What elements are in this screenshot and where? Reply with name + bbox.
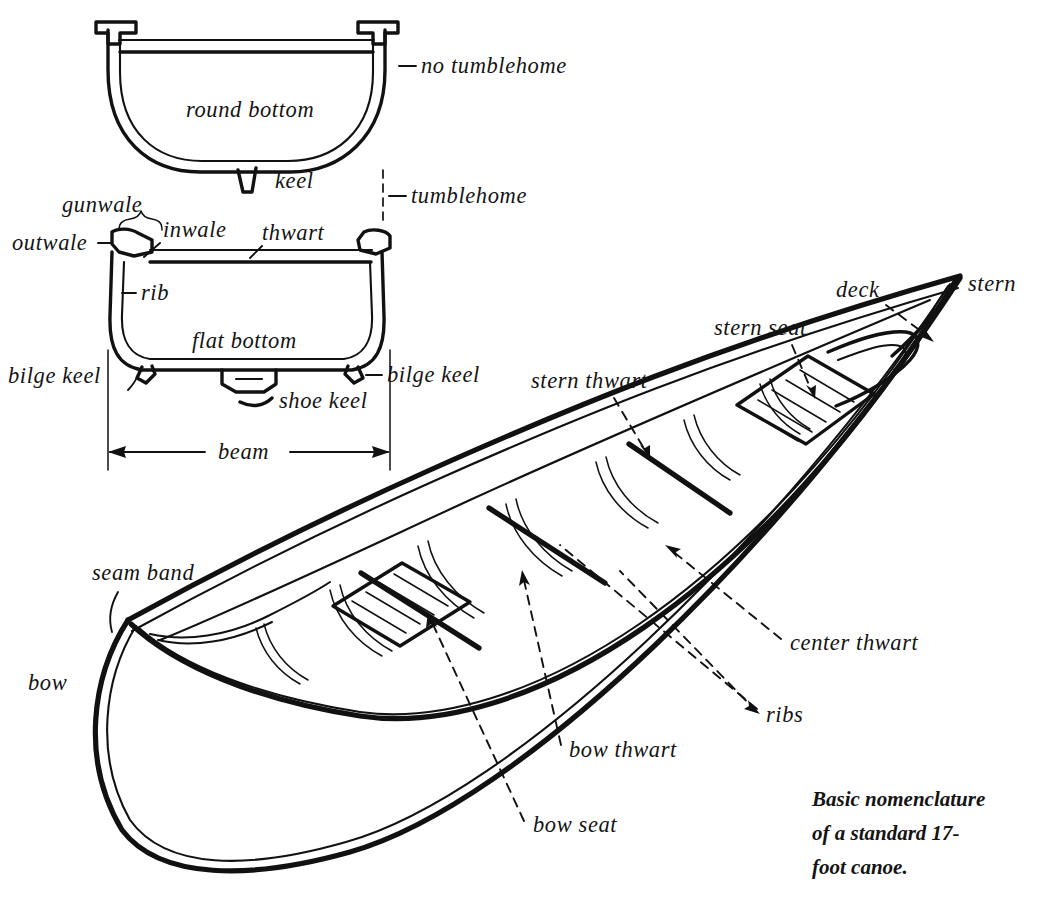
caption-line-1: Basic nomenclature [811, 787, 985, 811]
rib-3b [428, 541, 484, 613]
thwart-leader [250, 246, 262, 258]
rib-3 [418, 546, 474, 618]
tumblehome-reference: tumblehome [383, 170, 527, 222]
seam-band-leader [110, 592, 118, 632]
bow-seat-caning-1 [352, 601, 406, 633]
shoe-keel-leader-curve [240, 398, 272, 405]
label-bilge-keel-right: bilge keel [387, 362, 480, 387]
label-thwart: thwart [262, 220, 325, 245]
rib-2 [330, 590, 382, 656]
label-bow: bow [28, 670, 67, 695]
rib-7b [770, 379, 810, 429]
shoe-keel-block [222, 370, 276, 392]
stern-seat-caning-3 [786, 380, 840, 412]
label-keel: keel [275, 168, 314, 193]
rib-7 [760, 384, 800, 434]
label-flat-bottom: flat bottom [192, 328, 297, 353]
canoe-perspective-view: stern deck stern seat stern thwart cente… [28, 271, 1016, 871]
label-stern: stern [968, 271, 1016, 296]
label-round-bottom: round bottom [186, 97, 314, 122]
label-tumblehome: tumblehome [411, 183, 527, 208]
beam-arrowhead-right [372, 446, 390, 458]
label-ribs: ribs [766, 702, 803, 727]
rib-6 [684, 420, 730, 480]
label-outwale: outwale [12, 230, 87, 255]
label-stern-seat: stern seat [714, 315, 807, 340]
rib-5b [606, 457, 658, 523]
label-bilge-keel-left: bilge keel [8, 363, 101, 388]
label-no-tumblehome: no tumblehome [421, 53, 567, 78]
rib-5 [596, 462, 648, 528]
canoe-nomenclature-diagram: no tumblehome round bottom keel tumbleho… [0, 0, 1047, 905]
beam-arrowhead-left [108, 446, 126, 458]
stern-seat-caning-1 [758, 400, 812, 432]
label-beam: beam [218, 439, 269, 464]
label-center-thwart: center thwart [790, 630, 919, 655]
rib-4b [516, 499, 572, 571]
stern-seat-caning-2 [772, 390, 826, 422]
label-seam-band: seam band [92, 560, 194, 585]
bow-seat-caning-3 [380, 583, 434, 615]
label-bow-thwart: bow thwart [569, 737, 677, 762]
flat-bottom-cross-section: gunwale outwale inwale thwart rib flat b… [8, 192, 480, 413]
label-shoe-keel: shoe keel [279, 388, 367, 413]
canoe-stern-deck-inner [838, 345, 906, 370]
label-inwale: inwale [163, 217, 227, 242]
ribs-arrowhead [744, 700, 760, 714]
label-stern-thwart: stern thwart [531, 368, 648, 393]
rib-1b [264, 624, 308, 680]
rib-6b [694, 415, 740, 475]
rib-1 [256, 628, 300, 684]
label-deck: deck [836, 277, 880, 302]
bilge-keel-left-leader [128, 375, 138, 390]
stern-seat-caning-4 [800, 370, 854, 402]
caption-line-3: foot canoe. [812, 855, 908, 879]
caption-line-2: of a standard 17- [812, 821, 960, 845]
flat-gunwale-left [112, 229, 152, 256]
thwart-center [489, 508, 605, 583]
label-bow-seat: bow seat [533, 812, 617, 837]
label-rib: rib [141, 280, 169, 305]
round-bottom-cross-section: no tumblehome round bottom keel [96, 22, 567, 193]
figure-caption: Basic nomenclature of a standard 17- foo… [811, 787, 985, 879]
label-gunwale: gunwale [62, 192, 142, 217]
canoe-bow-interior [150, 582, 330, 637]
